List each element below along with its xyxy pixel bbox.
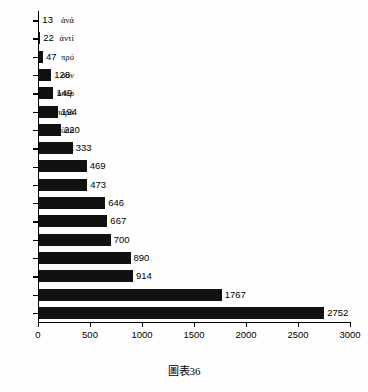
plot-area: ἀνά13ἀντί22πρό47σύν128ὑπέρ149παρά194ὑπό2…: [0, 0, 368, 340]
bar-row: σύν128: [0, 66, 368, 84]
bar: [38, 179, 87, 191]
bar-row: ἀντί22: [0, 29, 368, 47]
y-axis-tick: [33, 185, 39, 186]
bar-value-label: 194: [61, 107, 77, 117]
bar-row: ἀπό646: [0, 194, 368, 212]
bar-row: διά667: [0, 212, 368, 230]
y-axis-tick: [33, 240, 39, 241]
bar: [38, 234, 111, 246]
y-axis-tick: [33, 93, 39, 94]
x-axis-tick-label: 3000: [339, 330, 360, 340]
bar-value-label: 473: [90, 180, 106, 190]
y-axis-tick: [33, 203, 39, 204]
bar-value-label: 667: [110, 217, 126, 227]
y-axis-tick: [33, 130, 39, 131]
figure-caption: 圖表36: [0, 366, 368, 377]
bar: [38, 307, 324, 319]
y-axis-tick: [33, 148, 39, 149]
bar-row: εἰς1767: [0, 285, 368, 303]
x-axis-tick: [350, 322, 351, 327]
chart-figure: ἀνά13ἀντί22πρό47σύν128ὑπέρ149παρά194ὑπό2…: [0, 0, 368, 392]
x-axis-tick: [194, 322, 195, 327]
bar-value-label: 22: [43, 34, 54, 44]
bar-row: ἐπί890: [0, 249, 368, 267]
bar-value-label: 914: [136, 272, 152, 282]
y-axis-tick: [33, 313, 39, 314]
bar: [38, 252, 131, 264]
x-axis-tick-label: 0: [35, 330, 40, 340]
x-axis-tick-label: 2000: [235, 330, 256, 340]
bar-value-label: 220: [64, 125, 80, 135]
bar-row: κατά473: [0, 176, 368, 194]
bar-row: ἐκ914: [0, 267, 368, 285]
x-axis-tick: [298, 322, 299, 327]
bar-value-label: 47: [46, 52, 57, 62]
bar: [38, 215, 107, 227]
x-axis-tick: [90, 322, 91, 327]
y-axis-tick: [33, 295, 39, 296]
bar-value-label: 469: [90, 162, 106, 172]
x-axis-tick: [38, 322, 39, 327]
bar-value-label: 1767: [225, 290, 246, 300]
x-axis-tick-label: 500: [82, 330, 98, 340]
bar-row: ἐν2752: [0, 304, 368, 322]
y-axis-tick: [33, 167, 39, 168]
bar-row: ὑπό220: [0, 121, 368, 139]
bar: [38, 87, 53, 99]
bar: [38, 160, 87, 172]
y-axis-tick: [33, 75, 39, 76]
bar: [38, 142, 73, 154]
y-axis-tick: [33, 57, 39, 58]
bar-row: ὑπέρ149: [0, 84, 368, 102]
x-axis-tick: [246, 322, 247, 327]
bar: [38, 270, 133, 282]
bar-row: πρό47: [0, 48, 368, 66]
bar-value-label: 149: [56, 89, 72, 99]
bar-value-label: 128: [54, 70, 70, 80]
y-axis-tick: [33, 112, 39, 113]
x-axis-tick-label: 1000: [131, 330, 152, 340]
bar: [38, 106, 58, 118]
x-axis-tick-label: 2500: [287, 330, 308, 340]
bar-value-label: 890: [134, 253, 150, 263]
bar: [38, 289, 222, 301]
y-axis-tick: [33, 38, 39, 39]
bar-value-label: 13: [42, 15, 53, 25]
y-axis-tick: [33, 221, 39, 222]
bar: [38, 69, 51, 81]
bar-value-label: 333: [76, 143, 92, 153]
bar-row: πρός700: [0, 231, 368, 249]
y-axis-tick: [33, 258, 39, 259]
bar-row: περί333: [0, 139, 368, 157]
x-axis-tick-label: 1500: [183, 330, 204, 340]
x-axis-tick: [142, 322, 143, 327]
y-axis-tick: [33, 276, 39, 277]
bar: [38, 197, 105, 209]
bar-row: ἀνά13: [0, 11, 368, 29]
bar-row: μετά469: [0, 157, 368, 175]
bar-row: παρά194: [0, 102, 368, 120]
bar-value-label: 700: [114, 235, 130, 245]
bar-value-label: 646: [108, 198, 124, 208]
bar: [38, 124, 61, 136]
y-axis-tick: [33, 20, 39, 21]
bar-value-label: 2752: [327, 308, 348, 318]
